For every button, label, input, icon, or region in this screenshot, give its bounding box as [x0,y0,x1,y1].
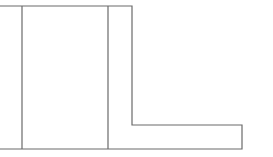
line-drawing [0,0,273,157]
outline-profile [0,6,242,149]
